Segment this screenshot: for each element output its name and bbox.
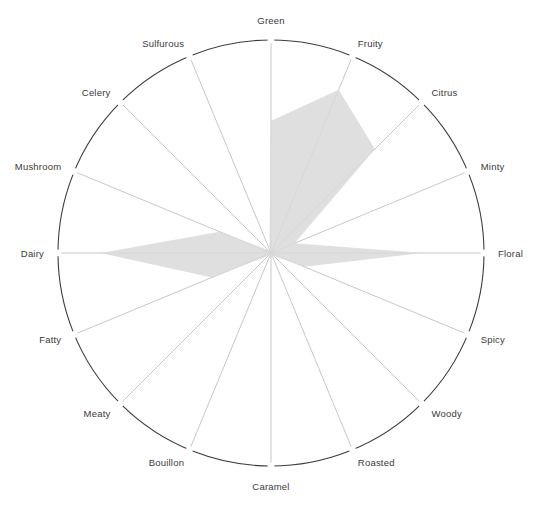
radar-axis-label-mushroom: Mushroom (15, 161, 61, 172)
radar-axis-label-meaty: Meaty (84, 408, 111, 419)
radar-series-group (101, 90, 423, 278)
radar-axis-vertex-floral (481, 250, 487, 256)
radar-axis-sulfurous (189, 56, 271, 253)
radar-axis-roasted (271, 253, 353, 450)
radar-axis-woody (271, 253, 422, 404)
radar-axis-vertex-citrus (418, 99, 424, 105)
radar-axis-vertex-woody (418, 400, 424, 406)
radar-axis-label-minty: Minty (481, 161, 505, 172)
radar-axis-label-woody: Woody (432, 408, 462, 419)
radar-axis-vertex-green (268, 37, 274, 43)
radar-axis-vertex-mushroom (71, 168, 77, 174)
radar-axis-label-caramel: Caramel (252, 481, 289, 492)
radar-axis-label-floral: Floral (498, 248, 523, 259)
radar-axis-label-dairy: Dairy (21, 248, 44, 259)
radar-axis-vertex-fatty (71, 331, 77, 337)
radar-axis-vertex-bouillon (186, 447, 192, 453)
radar-axis-label-fatty: Fatty (39, 334, 61, 345)
radar-axis-label-celery: Celery (82, 87, 111, 98)
radar-series-area-0 (101, 90, 423, 278)
radar-axis-vertex-meaty (117, 400, 123, 406)
radar-axis-vertex-roasted (349, 447, 355, 453)
radar-axis-label-spicy: Spicy (481, 334, 505, 345)
radar-axis-label-bouillon: Bouillon (149, 457, 184, 468)
radar-chart-canvas: GreenFruityCitrusMintyFloralSpicyWoodyRo… (0, 0, 543, 509)
radar-axis-vertex-caramel (268, 463, 274, 469)
radar-axis-label-fruity: Fruity (358, 38, 383, 49)
radar-axis-vertex-celery (117, 99, 123, 105)
radar-axis-vertex-fruity (349, 53, 355, 59)
radar-axis-vertex-spicy (465, 331, 471, 337)
radar-axis-label-sulfurous: Sulfurous (142, 38, 184, 49)
radar-axis-meaty (120, 253, 271, 404)
radar-axis-bouillon (189, 253, 271, 450)
radar-axis-vertex-sulfurous (186, 53, 192, 59)
radar-axis-label-green: Green (257, 15, 284, 26)
radar-chart: GreenFruityCitrusMintyFloralSpicyWoodyRo… (0, 0, 543, 509)
radar-axis-label-roasted: Roasted (358, 457, 395, 468)
radar-axis-vertex-minty (465, 168, 471, 174)
radar-axis-celery (120, 102, 271, 253)
radar-axis-label-citrus: Citrus (432, 87, 458, 98)
radar-axis-vertex-dairy (55, 250, 61, 256)
